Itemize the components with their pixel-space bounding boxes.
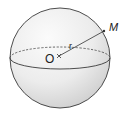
sphere-diagram: O r M [0, 0, 126, 113]
radius-label: r [69, 41, 72, 51]
sphere-outline [10, 8, 110, 108]
center-label: O [45, 52, 54, 66]
point-m-dot [103, 30, 105, 32]
point-label: M [109, 21, 119, 33]
